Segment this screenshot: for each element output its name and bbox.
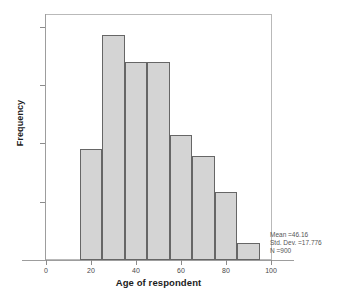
x-tick-label: 20: [77, 267, 105, 274]
y-tick-mark: [40, 85, 45, 86]
histogram-bar: [215, 192, 238, 260]
histogram-bars: [46, 15, 271, 260]
histogram-bar: [237, 243, 260, 261]
x-tick-mark: [91, 260, 92, 265]
stat-mean: Mean =46.16: [270, 231, 322, 239]
x-tick-mark: [181, 260, 182, 265]
y-axis-title: Frequency: [15, 83, 25, 163]
histogram-bar: [125, 62, 148, 260]
x-tick-mark: [46, 260, 47, 265]
x-tick-mark: [271, 260, 272, 265]
x-tick-mark: [226, 260, 227, 265]
x-axis-title: Age of respondent: [45, 277, 272, 288]
top-caption-strip: [6, 0, 306, 5]
stat-n: N =900: [270, 247, 322, 255]
y-tick-mark: [40, 27, 45, 28]
x-tick-label: 0: [32, 267, 60, 274]
statistics-annotation: Mean =46.16 Std. Dev. =17.776 N =900: [270, 231, 322, 255]
histogram-bar: [102, 35, 125, 260]
y-tick-mark: [40, 143, 45, 144]
histogram-bar: [192, 156, 215, 260]
histogram-bar: [80, 149, 103, 260]
plot-area: [46, 15, 271, 260]
y-tick-mark: [40, 202, 45, 203]
histogram-chart: 050100150200 Frequency 020406080100 Age …: [0, 0, 344, 307]
x-tick-mark: [136, 260, 137, 265]
x-tick-label: 60: [167, 267, 195, 274]
x-axis-line: [22, 260, 294, 261]
x-tick-label: 40: [122, 267, 150, 274]
x-tick-label: 80: [212, 267, 240, 274]
histogram-bar: [170, 135, 193, 260]
x-tick-label: 100: [257, 267, 285, 274]
histogram-bar: [147, 62, 170, 260]
y-axis-line: [45, 14, 46, 261]
stat-std-dev: Std. Dev. =17.776: [270, 239, 322, 247]
